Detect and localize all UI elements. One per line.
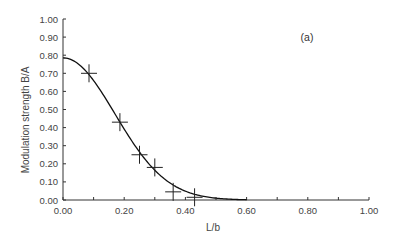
data-points — [81, 64, 203, 206]
x-tick-label: 0.20 — [115, 205, 134, 216]
y-tick-label: 0.10 — [40, 176, 59, 187]
y-axis-ticks: 0.000.100.200.300.400.500.600.700.800.90… — [40, 14, 67, 206]
panel-annotation: (a) — [301, 31, 314, 43]
y-tick-label: 0.70 — [40, 68, 59, 79]
data-point-plus-marker — [147, 158, 163, 176]
y-tick-label: 0.50 — [40, 104, 59, 115]
y-tick-label: 1.00 — [40, 14, 59, 25]
x-tick-label: 0.40 — [176, 205, 195, 216]
y-tick-label: 0.80 — [40, 50, 59, 61]
x-tick-label: 0.80 — [299, 205, 318, 216]
axes — [63, 19, 369, 200]
data-point-plus-marker — [187, 188, 203, 206]
x-tick-label: 0.60 — [237, 205, 256, 216]
data-point-plus-marker — [132, 146, 148, 164]
data-point-plus-marker — [81, 64, 97, 82]
y-tick-label: 0.20 — [40, 158, 59, 169]
modulation-chart: 0.000.100.200.300.400.500.600.700.800.90… — [0, 0, 398, 246]
fit-curve — [63, 58, 247, 200]
y-tick-label: 0.30 — [40, 140, 59, 151]
x-tick-label: 0.00 — [54, 205, 73, 216]
data-point-plus-marker — [165, 183, 181, 201]
data-point-plus-marker — [112, 113, 128, 131]
x-tick-label: 1.00 — [360, 205, 379, 216]
y-axis-label: Modulation strength B/A — [20, 66, 31, 173]
y-tick-label: 0.60 — [40, 86, 59, 97]
y-tick-label: 0.00 — [40, 195, 59, 206]
y-tick-label: 0.40 — [40, 122, 59, 133]
x-axis-label: L/b — [206, 222, 220, 233]
y-tick-label: 0.90 — [40, 32, 59, 43]
